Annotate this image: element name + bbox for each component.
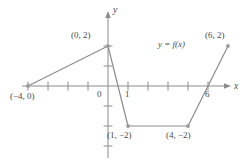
data-point-0-2 [106, 44, 110, 48]
point-label-1-minus2: (1, −2) [107, 131, 132, 140]
y-axis-label: y [113, 6, 117, 16]
x-tick-label-1: 1 [125, 90, 130, 99]
data-point-minus4-0 [26, 84, 30, 88]
point-label-minus4-0: (−4, 0) [10, 92, 35, 101]
data-point-6-2 [226, 44, 230, 48]
point-label-4-minus2: (4, −2) [166, 131, 191, 140]
function-equation-label: y = f(x) [158, 40, 185, 49]
y-axis-arrow-icon [105, 11, 111, 18]
origin-label: 0 [97, 90, 102, 99]
x-tick-label-6: 6 [205, 90, 210, 99]
x-axis-arrow-icon [224, 83, 231, 89]
data-point-4-minus2 [186, 124, 190, 128]
point-label-6-2: (6, 2) [205, 31, 225, 40]
data-point-1-minus2 [126, 124, 130, 128]
point-label-0-2: (0, 2) [71, 31, 91, 40]
function-graph-figure: x y 0 1 6 (−4, 0) (0, 2) (1, −2) (4, −2)… [0, 0, 250, 162]
x-axis-label: x [234, 82, 238, 92]
